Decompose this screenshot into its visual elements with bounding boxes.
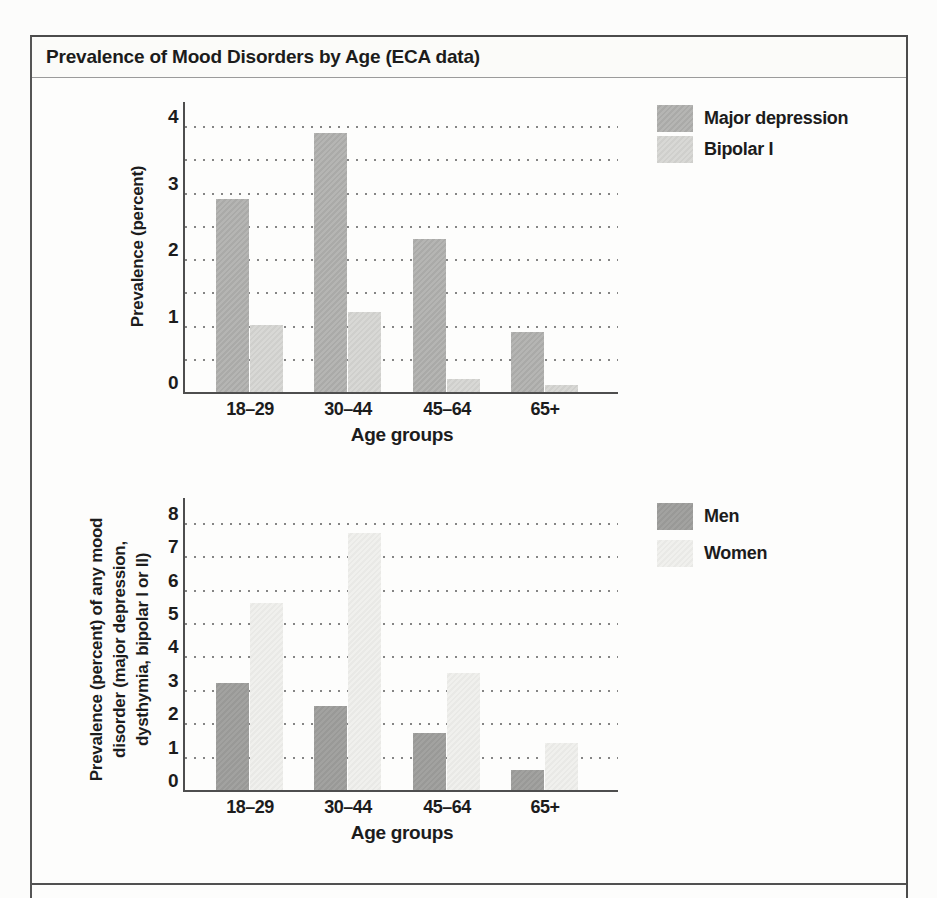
bar-women-45-64: [447, 673, 480, 790]
bar-men-30-44: [314, 706, 347, 790]
gridline: [185, 226, 618, 228]
legend-label-women: Women: [704, 540, 767, 567]
x-tick-label-30-44: 30–44: [308, 797, 388, 817]
bar-major-depression-65: [511, 332, 544, 392]
bar-men-18-29: [216, 683, 249, 790]
bar-women-18-29: [250, 603, 283, 790]
x-axis-title: Age groups: [322, 823, 482, 843]
y-tick-label: 0: [136, 374, 178, 392]
legend-label-men: Men: [704, 503, 739, 530]
legend-swatch-major-depression: [657, 105, 693, 132]
x-axis-line: [183, 790, 618, 792]
bar-bipolar-i-45-64: [447, 379, 480, 392]
gridline: [185, 159, 618, 161]
x-tick-label-18-29: 18–29: [210, 399, 290, 419]
x-tick-label-45-64: 45–64: [407, 399, 487, 419]
x-tick-label-65: 65+: [505, 399, 585, 419]
x-tick-label-18-29: 18–29: [210, 797, 290, 817]
legend-swatch-bipolar-i: [657, 136, 693, 163]
y-axis-line: [183, 498, 185, 792]
gridline: [185, 292, 618, 294]
y-axis-title: Prevalence (percent): [126, 132, 149, 362]
y-axis-title: Prevalence (percent) of any mooddisorder…: [85, 482, 154, 818]
bar-major-depression-30-44: [314, 133, 347, 392]
gridline: [185, 259, 618, 261]
legend-swatch-men: [657, 503, 693, 530]
legend-label-bipolar-i: Bipolar I: [704, 136, 773, 163]
bar-bipolar-i-18-29: [250, 325, 283, 392]
legend-swatch-women: [657, 540, 693, 567]
bar-bipolar-i-65: [545, 385, 578, 392]
bar-major-depression-18-29: [216, 199, 249, 392]
gridline: [185, 523, 618, 525]
bar-women-65: [545, 743, 578, 790]
gridline: [185, 193, 618, 195]
x-tick-label-45-64: 45–64: [407, 797, 487, 817]
bar-men-65: [511, 770, 544, 790]
y-tick-label: 4: [136, 108, 178, 126]
x-tick-label-65: 65+: [505, 797, 585, 817]
gridline: [185, 126, 618, 128]
bar-bipolar-i-30-44: [348, 312, 381, 392]
x-axis-title: Age groups: [322, 425, 482, 445]
charts-layer: 0123418–2930–4445–6465+Age groupsPrevale…: [0, 0, 937, 898]
x-tick-label-30-44: 30–44: [308, 399, 388, 419]
figure-page: Prevalence of Mood Disorders by Age (ECA…: [0, 0, 937, 898]
x-axis-line: [183, 392, 618, 394]
gridline: [185, 556, 618, 558]
bar-men-45-64: [413, 733, 446, 790]
y-axis-line: [183, 102, 185, 394]
bar-major-depression-45-64: [413, 239, 446, 392]
gridline: [185, 590, 618, 592]
bar-women-30-44: [348, 533, 381, 790]
legend-label-major-depression: Major depression: [704, 105, 848, 132]
